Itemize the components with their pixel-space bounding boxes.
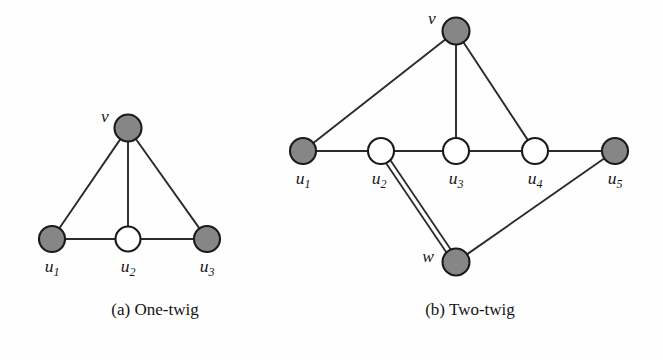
node-label-subscript: 3 bbox=[207, 265, 214, 279]
subfigure-a: vu1u2u3(a) One-twig bbox=[39, 106, 220, 319]
node-label-v: v bbox=[101, 106, 109, 126]
edge-v-u1 bbox=[312, 38, 447, 143]
edge-u2-w-line2 bbox=[390, 159, 452, 251]
subfigure-caption-b: (b) Two-twig bbox=[425, 300, 515, 319]
edge-v-u4 bbox=[463, 41, 529, 141]
twig-graph-figure: vu1u2u3(a) One-twigvu1u2u3u4u5w(b) Two-t… bbox=[0, 0, 663, 360]
graph-node-u2 bbox=[368, 138, 394, 164]
node-label-u1: u1 bbox=[296, 168, 311, 191]
graph-node-u2 bbox=[116, 227, 141, 252]
node-label-layer: vu1u2u3u4u5w bbox=[296, 8, 623, 266]
graph-node-u1 bbox=[39, 226, 65, 252]
edge-v-u1 bbox=[58, 138, 121, 230]
node-label-u3: u3 bbox=[449, 168, 464, 191]
node-label-subscript: 4 bbox=[536, 177, 542, 191]
node-label-subscript: 2 bbox=[129, 265, 135, 279]
graph-node-u4 bbox=[522, 138, 548, 164]
node-label-u3: u3 bbox=[200, 256, 215, 279]
subfigure-caption-a: (a) One-twig bbox=[111, 300, 199, 319]
node-label-u2: u2 bbox=[372, 168, 387, 191]
node-label-subscript: 1 bbox=[304, 177, 310, 191]
graph-node-u3 bbox=[194, 226, 220, 252]
graph-node-v bbox=[443, 18, 470, 45]
node-label-u4: u4 bbox=[528, 168, 543, 191]
graph-node-u3 bbox=[443, 138, 469, 164]
node-label-w: w bbox=[422, 246, 434, 266]
graph-node-u1 bbox=[290, 138, 316, 164]
graph-node-u5 bbox=[602, 138, 628, 164]
figure-page: vu1u2u3(a) One-twigvu1u2u3u4u5w(b) Two-t… bbox=[0, 0, 663, 360]
edge-layer bbox=[58, 138, 200, 239]
node-label-subscript: 2 bbox=[380, 177, 386, 191]
subfigure-b: vu1u2u3u4u5w(b) Two-twig bbox=[290, 8, 628, 319]
node-label-subscript: 5 bbox=[616, 177, 622, 191]
edge-v-u3 bbox=[135, 138, 200, 230]
node-label-subscript: 1 bbox=[53, 265, 59, 279]
node-label-u1: u1 bbox=[45, 256, 60, 279]
edge-u2-w-line1 bbox=[385, 162, 447, 254]
node-layer bbox=[39, 115, 220, 253]
node-label-v: v bbox=[428, 8, 436, 28]
graph-node-w bbox=[443, 249, 470, 276]
graph-node-v bbox=[115, 115, 142, 142]
node-label-u2: u2 bbox=[121, 256, 136, 279]
node-layer bbox=[290, 18, 628, 276]
node-label-subscript: 3 bbox=[456, 177, 463, 191]
node-label-u5: u5 bbox=[608, 168, 623, 191]
